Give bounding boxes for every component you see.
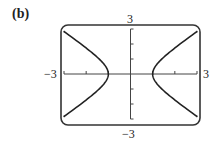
plot-area [0,0,216,142]
axes [64,29,197,119]
